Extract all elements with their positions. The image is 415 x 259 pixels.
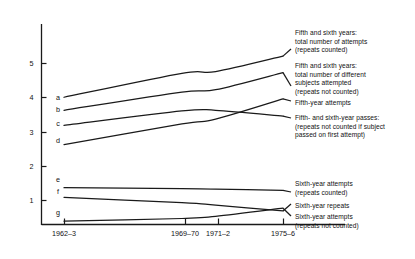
legend-line: Fifth-year attempts [295, 99, 351, 108]
leader-line-e [283, 190, 291, 192]
y-tick-label-4: 4 [30, 93, 34, 102]
y-axis-ticks: 54321 [30, 59, 47, 205]
legend-e: Sixth-year attempts(repeats counted) [295, 180, 353, 197]
legend-line: (repeats not counted if subject [295, 123, 385, 132]
series-line-f [64, 197, 283, 211]
y-tick-label-1: 1 [30, 196, 34, 205]
legend-line: (repeats not counted) [295, 222, 359, 231]
series-key-b: b [56, 105, 60, 114]
legend-line: total number of attempts [295, 38, 367, 47]
series-key-labels: abcdefg [56, 93, 60, 217]
x-tick-label: 1971–2 [206, 229, 230, 238]
series-line-g [64, 208, 283, 221]
series-line-b [64, 73, 283, 111]
series-key-a: a [56, 93, 60, 102]
legend-a: Fifth and sixth years:total number of at… [295, 29, 367, 55]
x-tick-label: 1969–70 [171, 229, 199, 238]
y-tick-label-2: 2 [30, 162, 34, 171]
series-key-e: e [56, 175, 60, 184]
x-axis-ticks: 1962–31969–701971–21975–6 [52, 219, 295, 238]
leader-line-b [283, 73, 291, 86]
series-key-f: f [57, 187, 59, 196]
leader-line-g [283, 208, 291, 216]
legend-line: Sixth-year repeats [295, 202, 349, 211]
legend-b: Fifth and sixth years:total number of di… [295, 62, 366, 96]
legend-line: Sixth-year attempts [295, 213, 359, 222]
series-key-c: c [56, 119, 60, 128]
x-tick-label: 1975–6 [271, 229, 295, 238]
legend-line: Fifth and sixth years: [295, 62, 366, 71]
legend-line: Fifth- and sixth-year passes: [295, 114, 385, 123]
series-line-a [64, 56, 283, 97]
legend-line: total number of different [295, 71, 366, 80]
legend-line: (repeats counted) [295, 189, 353, 198]
legend-f: Sixth-year repeats [295, 202, 349, 211]
legend-line: passed on first attempt) [295, 131, 385, 140]
leader-line-c [283, 116, 291, 118]
series-key-d: d [56, 136, 60, 145]
legend-d: Fifth-year attempts [295, 99, 351, 108]
y-tick-label-5: 5 [30, 59, 34, 68]
legend-line: Sixth-year attempts [295, 180, 353, 189]
x-tick-label: 1962–3 [52, 229, 76, 238]
series-key-g: g [56, 208, 60, 217]
legend-leader-lines [283, 49, 291, 216]
series-line-e [64, 188, 283, 191]
y-tick-label-3: 3 [30, 128, 34, 137]
legend-line: (repeats counted) [295, 46, 367, 55]
legend-line: (repeats not counted) [295, 88, 366, 97]
legend-line: Fifth and sixth years: [295, 29, 367, 38]
leader-line-d [283, 99, 291, 101]
legend-g: Sixth-year attempts(repeats not counted) [295, 213, 359, 230]
legend-line: subjects attempted [295, 79, 366, 88]
chart-series-lines [64, 56, 283, 221]
legend-c: Fifth- and sixth-year passes:(repeats no… [295, 114, 385, 140]
series-line-c [64, 109, 283, 125]
leader-line-a [283, 49, 291, 56]
chart-figure: 54321 1962–31969–701971–21975–6 abcdefg … [0, 0, 415, 259]
